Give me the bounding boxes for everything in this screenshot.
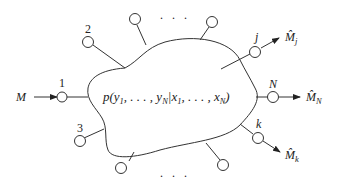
terminal-top-left-node xyxy=(130,14,141,25)
terminal-j-stem xyxy=(221,54,250,69)
terminal-bottom-right-node xyxy=(218,160,229,171)
output-k-label: M̂k xyxy=(284,148,299,164)
terminal-j-node xyxy=(250,47,261,58)
terminal-bottom-right-stem xyxy=(206,143,220,160)
terminal-1-label: 1 xyxy=(59,76,65,90)
terminal-2-label: 2 xyxy=(85,22,91,36)
output-k-arrow xyxy=(263,141,280,152)
terminal-top-right-node xyxy=(207,17,218,28)
output-j-arrow xyxy=(261,38,279,48)
terminal-3-node xyxy=(75,136,86,147)
terminal-2-stem xyxy=(93,45,125,68)
terminal-N-node xyxy=(268,92,279,103)
terminal-top-right-stem xyxy=(200,27,209,40)
ellipsis-top: . . . xyxy=(160,8,190,22)
terminal-bottom-left-node xyxy=(116,163,127,174)
terminal-3-stem xyxy=(84,129,104,138)
terminal-k-node xyxy=(253,133,264,144)
terminal-k-label: k xyxy=(256,117,262,131)
ellipsis-bottom: . . . xyxy=(160,166,190,180)
channel-formula: p(y1, . . . , yN|x1, . . . , xN) xyxy=(102,89,230,106)
terminal-1-node xyxy=(57,92,67,102)
multiterminal-channel-diagram: M 1 2 3 j N k M̂j M̂N M̂k p(y1, . . . , … xyxy=(0,0,340,185)
terminal-N-label: N xyxy=(268,77,278,91)
input-label: M xyxy=(15,90,27,104)
output-N-label: M̂N xyxy=(305,90,323,106)
terminal-3-label: 3 xyxy=(77,121,83,135)
terminal-top-left-stem xyxy=(137,25,146,45)
terminal-2-node xyxy=(83,37,94,48)
terminal-j-label: j xyxy=(253,30,259,44)
terminal-k-stem xyxy=(240,124,253,134)
output-j-label: M̂j xyxy=(284,30,298,46)
